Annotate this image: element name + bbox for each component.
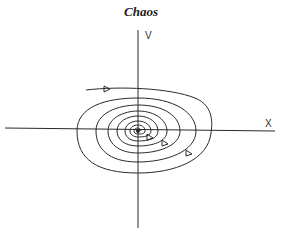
arrow-icon (186, 150, 192, 156)
phase-portrait (0, 0, 282, 235)
arrow-icon (162, 140, 168, 146)
arrow-icon (104, 86, 110, 92)
fixed-point (137, 130, 140, 133)
